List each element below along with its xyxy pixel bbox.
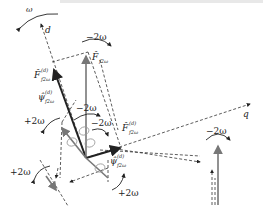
svg-text:f2ω: f2ω bbox=[98, 58, 108, 65]
omega-rotation-arc bbox=[20, 14, 58, 28]
svg-text:F̂: F̂ bbox=[121, 122, 129, 133]
F-f2w-label: F̂ f2ω bbox=[91, 51, 108, 65]
svg-text:f2ω: f2ω bbox=[44, 98, 54, 105]
minus-2omega-top-label: −2ω bbox=[86, 32, 107, 42]
minus-2omega-center2-label: −2ω bbox=[91, 118, 112, 128]
psi-f2w-d-left-vector bbox=[62, 128, 86, 158]
svg-text:F̂: F̂ bbox=[91, 51, 99, 62]
F-f2w-d-vector bbox=[54, 70, 86, 158]
psi-f2w-d-right-label: ψ̂ (d) f2ω bbox=[110, 153, 126, 169]
svg-text:(d): (d) bbox=[45, 89, 52, 95]
svg-text:f2ω: f2ω bbox=[128, 129, 138, 136]
svg-text:(d): (d) bbox=[129, 120, 136, 126]
minus-2omega-center1-label: −2ω bbox=[76, 103, 97, 113]
plus-2omega-left-label: +2ω bbox=[24, 116, 45, 126]
svg-text:(d): (d) bbox=[41, 67, 48, 73]
minus-2omega-right-label: −2ω bbox=[206, 126, 227, 136]
svg-text:f2ω: f2ω bbox=[116, 162, 126, 169]
plus-2omega-left-arc bbox=[44, 118, 60, 130]
F-f2w-d-left-label: F̂ (d) f2ω bbox=[33, 67, 50, 83]
svg-text:(d): (d) bbox=[117, 153, 124, 159]
plus-2omega-lower-left-label: +2ω bbox=[10, 167, 31, 177]
psi-f2w-d-left-label: ψ̂ (d) f2ω bbox=[38, 89, 54, 105]
F-f2w-d-right-label: F̂ (d) f2ω bbox=[121, 120, 138, 136]
plus-2omega-bottom-label: +2ω bbox=[118, 188, 139, 198]
minus-2omega-center2-arc bbox=[92, 129, 108, 136]
d-axis-label: d bbox=[45, 25, 51, 35]
svg-text:f2ω: f2ω bbox=[40, 76, 50, 83]
omega-label: ω bbox=[26, 5, 33, 14]
svg-text:F̂: F̂ bbox=[33, 69, 41, 80]
q-axis-label: q bbox=[243, 109, 249, 119]
right-vertical-arrows bbox=[212, 146, 218, 205]
dq-vector-diagram: d q bbox=[0, 0, 263, 219]
